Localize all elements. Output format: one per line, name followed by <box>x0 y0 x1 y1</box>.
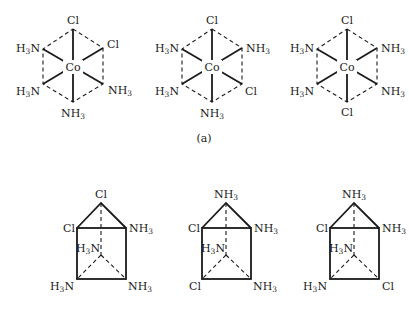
octahedron-1: Co Cl H3N Cl H3N NH3 NH3 <box>16 14 132 121</box>
ligand-lower-left: H3N <box>155 85 179 99</box>
ligand-bottom: NH3 <box>61 107 85 121</box>
center-atom: Co <box>65 61 80 74</box>
ligand-back: H3N <box>329 242 353 256</box>
ligand-top-right: NH3 <box>382 222 406 236</box>
ligand-top-right: NH3 <box>129 222 153 236</box>
ligand-lower-left: H3N <box>16 85 40 99</box>
octahedron-2: Co Cl H3N NH3 H3N Cl NH3 <box>155 14 270 121</box>
prism-1: Cl Cl NH3 H3N H3N NH3 <box>50 188 153 294</box>
ligand-top: Cl <box>341 14 353 27</box>
center-atom: Co <box>204 61 219 74</box>
ligand-upper-right: NH3 <box>381 42 405 56</box>
isomer-diagram: Co Cl H3N Cl H3N NH3 NH3 Co Cl H3N NH3 H… <box>0 0 409 314</box>
ligand-lower-right: NH3 <box>108 84 132 98</box>
ligand-bottom-left: H3N <box>303 280 327 294</box>
center-atom: Co <box>339 61 354 74</box>
ligand-bottom: Cl <box>341 106 353 119</box>
ligand-bottom-right: NH3 <box>128 280 152 294</box>
octahedron-3: Co Cl H3N NH3 H3N NH3 Cl <box>290 14 405 119</box>
ligand-back: H3N <box>201 242 225 256</box>
ligand-lower-left: H3N <box>290 85 314 99</box>
caption-a: (a) <box>196 132 211 145</box>
ligand-bottom: NH3 <box>200 107 224 121</box>
ligand-lower-right: NH3 <box>381 85 405 99</box>
ligand-upper-left: H3N <box>290 42 314 56</box>
ligand-top-left: Cl <box>63 222 75 235</box>
ligand-apex: Cl <box>95 188 107 201</box>
ligand-top: Cl <box>67 14 79 27</box>
ligand-back: H3N <box>76 242 100 256</box>
ligand-top: Cl <box>206 14 218 27</box>
ligand-top-left: Cl <box>188 222 200 235</box>
ligand-apex: NH3 <box>214 188 238 202</box>
ligand-upper-left: H3N <box>155 42 179 56</box>
ligand-top-left: Cl <box>316 222 328 235</box>
ligand-upper-right: NH3 <box>246 42 270 56</box>
ligand-upper-left: H3N <box>16 42 40 56</box>
ligand-bottom-right: Cl <box>382 280 394 293</box>
ligand-lower-right: Cl <box>245 85 257 98</box>
prism-2: NH3 Cl NH3 H3N Cl NH3 <box>188 188 278 294</box>
ligand-bottom-left: H3N <box>50 280 74 294</box>
prism-3: NH3 Cl NH3 H3N H3N Cl <box>303 188 406 294</box>
ligand-apex: NH3 <box>342 188 366 202</box>
ligand-top-right: NH3 <box>254 222 278 236</box>
ligand-upper-right: Cl <box>107 38 119 51</box>
ligand-bottom-right: NH3 <box>253 280 277 294</box>
ligand-bottom-left: Cl <box>189 280 201 293</box>
